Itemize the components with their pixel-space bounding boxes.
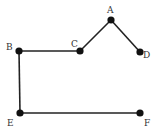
edge-a-d bbox=[111, 20, 140, 52]
edge-c-a bbox=[80, 20, 111, 51]
node-b bbox=[15, 47, 22, 54]
edge-b-e bbox=[19, 51, 20, 113]
node-label-c: C bbox=[71, 39, 78, 49]
edges-group bbox=[19, 20, 140, 113]
labels-group: A B C D E F bbox=[6, 5, 150, 128]
node-label-f: F bbox=[144, 118, 150, 128]
node-label-a: A bbox=[106, 5, 114, 15]
graph-diagram: A B C D E F bbox=[0, 0, 157, 135]
node-e bbox=[16, 109, 23, 116]
node-f bbox=[136, 109, 143, 116]
node-label-d: D bbox=[143, 50, 150, 60]
node-label-e: E bbox=[7, 118, 14, 128]
node-label-b: B bbox=[6, 42, 13, 52]
node-a bbox=[107, 16, 114, 23]
nodes-group bbox=[15, 16, 143, 116]
